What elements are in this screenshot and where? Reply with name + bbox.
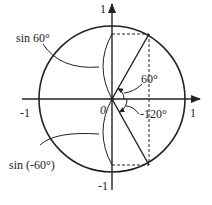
angle-60-arc (118, 89, 124, 99)
angle-60-leader (124, 84, 142, 93)
sin60-leader (43, 44, 99, 67)
angle-neg120-label: -120° (140, 107, 167, 121)
y-positive-label: 1 (100, 2, 106, 16)
unit-circle-diagram: 1 -1 1 -1 0 60° -120° sin 60° sin (-60°) (0, 0, 212, 205)
y-negative-label: -1 (98, 179, 108, 193)
origin-point (110, 97, 114, 101)
x-positive-label: 1 (190, 106, 196, 120)
origin-label: 0 (100, 103, 106, 117)
sin60-brace (103, 34, 112, 99)
sin-neg60-label: sin (-60°) (9, 158, 55, 172)
x-negative-label: -1 (20, 106, 30, 120)
angle-neg120-leader (126, 106, 139, 114)
sin60-label: sin 60° (16, 31, 50, 45)
angle-neg120-arc (120, 99, 128, 112)
angle-60-label: 60° (141, 72, 158, 86)
radius-60-line (112, 34, 149, 99)
